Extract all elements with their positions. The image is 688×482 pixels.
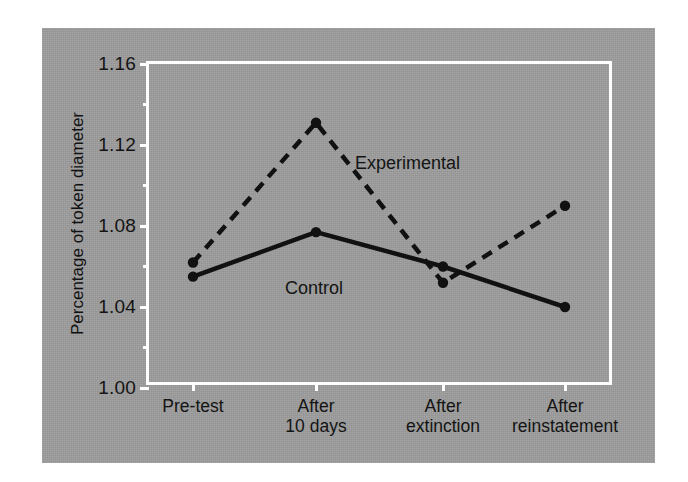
data-point-marker [438, 261, 448, 271]
data-point-marker [188, 257, 198, 267]
series-label-control: Control [285, 278, 343, 299]
data-point-marker [311, 118, 321, 128]
data-point-marker [188, 271, 198, 281]
data-point-marker [560, 201, 570, 211]
y-tick-label: 1.16 [98, 53, 136, 75]
series-line-control [193, 232, 565, 307]
y-tick-label: 1.08 [98, 215, 136, 237]
x-tick-label: After reinstatement [512, 396, 618, 436]
x-tick-label: Pre-test [162, 396, 223, 416]
y-tick-major [140, 144, 149, 147]
series-label-experimental: Experimental [355, 153, 460, 174]
y-tick-label: 1.00 [98, 377, 136, 399]
y-axis-title: Percentage of token diameter [68, 61, 88, 385]
y-tick-major [140, 63, 149, 66]
data-point-marker [311, 227, 321, 237]
series-lines [149, 64, 615, 388]
figure-panel: Percentage of token diameter 1.001.041.0… [42, 28, 655, 463]
y-tick-major [140, 387, 149, 390]
plot-area: 1.001.041.081.121.16 Pre-testAfter 10 da… [146, 61, 612, 385]
x-tick-label: After 10 days [285, 396, 346, 436]
data-point-marker [438, 278, 448, 288]
y-tick-label: 1.12 [98, 134, 136, 156]
y-tick-label: 1.04 [98, 296, 136, 318]
data-point-marker [560, 302, 570, 312]
y-tick-major [140, 225, 149, 228]
x-tick-label: After extinction [406, 396, 480, 436]
y-tick-major [140, 306, 149, 309]
